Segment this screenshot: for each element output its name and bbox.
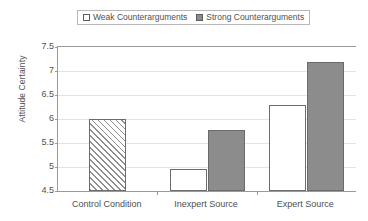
y-tick-mark: [55, 167, 58, 168]
bar-chart: Weak Counterarguments Strong Counterargu…: [0, 0, 368, 221]
x-category-label: Inexpert Source: [174, 199, 238, 209]
plot-area: [57, 46, 356, 192]
x-tick-mark: [157, 191, 158, 195]
y-tick-label: 7: [14, 66, 54, 75]
y-tick-mark: [55, 47, 58, 48]
y-tick-label: 5.5: [14, 138, 54, 147]
legend-swatch-weak-icon: [83, 14, 90, 21]
y-tick-mark: [55, 143, 58, 144]
plot-inner: [58, 47, 356, 191]
bar: [269, 105, 306, 191]
x-category-label: Expert Source: [277, 199, 334, 209]
bar: [170, 169, 207, 191]
legend-item-strong: Strong Counterarguments: [196, 11, 304, 24]
y-tick-label: 4.5: [14, 186, 54, 195]
y-tick-mark: [55, 119, 58, 120]
legend-item-weak: Weak Counterarguments: [83, 11, 187, 24]
chart-legend: Weak Counterarguments Strong Counterargu…: [77, 10, 310, 25]
y-tick-mark: [55, 95, 58, 96]
y-tick-mark: [55, 191, 58, 192]
y-tick-mark: [55, 71, 58, 72]
x-category-label: Control Condition: [72, 199, 142, 209]
bar: [89, 119, 126, 191]
x-tick-mark: [257, 191, 258, 195]
legend-label-weak: Weak Counterarguments: [93, 13, 187, 22]
legend-label-strong: Strong Counterarguments: [206, 13, 304, 22]
y-tick-label: 6: [14, 114, 54, 123]
y-tick-label: 6.5: [14, 90, 54, 99]
y-tick-label: 5: [14, 162, 54, 171]
legend-swatch-strong-icon: [196, 14, 203, 21]
bar: [208, 130, 245, 191]
y-tick-label: 7.5: [14, 42, 54, 51]
bar: [307, 62, 344, 191]
